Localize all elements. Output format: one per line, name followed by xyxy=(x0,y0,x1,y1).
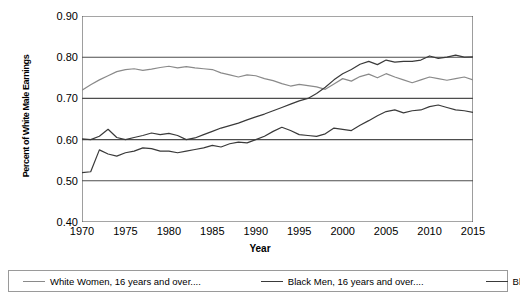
x-tick-label: 2000 xyxy=(330,225,354,237)
data-series-line-2 xyxy=(82,105,473,173)
data-series-line-0 xyxy=(82,66,473,90)
x-tick-label: 1985 xyxy=(200,225,224,237)
chart-container: Percent of White Male Earnings 0.900.800… xyxy=(0,0,520,303)
x-axis-label: Year xyxy=(0,243,520,254)
y-axis-label: Percent of White Male Earnings xyxy=(14,16,38,216)
plot-area xyxy=(82,16,473,222)
legend-label: White Women, 16 years and over.... xyxy=(50,276,201,287)
legend-item[interactable]: Black Women, 16 years and over.... xyxy=(486,276,520,287)
x-axis-ticks: 1970197519801985199019952000200520102015 xyxy=(0,225,520,241)
x-tick-label: 1990 xyxy=(244,225,268,237)
chart-legend: White Women, 16 years and over....Black … xyxy=(8,270,508,292)
y-tick-label: 0.50 xyxy=(57,175,78,187)
y-axis-ticks: 0.900.800.700.600.500.40 xyxy=(44,0,78,240)
x-tick-label: 2005 xyxy=(374,225,398,237)
y-tick-label: 0.90 xyxy=(57,10,78,22)
y-tick-label: 0.70 xyxy=(57,92,78,104)
x-tick-label: 1975 xyxy=(113,225,137,237)
x-tick-label: 2010 xyxy=(417,225,441,237)
legend-item[interactable]: White Women, 16 years and over.... xyxy=(23,276,201,287)
data-series-line-1 xyxy=(82,55,473,139)
x-tick-label: 1980 xyxy=(157,225,181,237)
legend-swatch-icon xyxy=(261,281,283,282)
plot-svg xyxy=(82,16,473,222)
legend-swatch-icon xyxy=(486,281,508,282)
legend-swatch-icon xyxy=(23,281,45,282)
x-tick-label: 2015 xyxy=(461,225,485,237)
legend-label: Black Men, 16 years and over.... xyxy=(288,276,424,287)
legend-label: Black Women, 16 years and over.... xyxy=(513,276,520,287)
y-tick-label: 0.80 xyxy=(57,51,78,63)
y-tick-label: 0.60 xyxy=(57,134,78,146)
x-tick-label: 1995 xyxy=(287,225,311,237)
x-tick-label: 1970 xyxy=(70,225,94,237)
legend-item[interactable]: Black Men, 16 years and over.... xyxy=(261,276,424,287)
